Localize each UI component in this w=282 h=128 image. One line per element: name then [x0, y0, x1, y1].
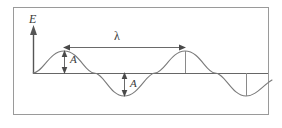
- wavelength-annotation: [63, 45, 186, 51]
- y-axis-arrowhead-icon: [30, 25, 37, 35]
- wavelength-label: λ: [114, 30, 120, 42]
- amplitude-trough-annotation: [122, 72, 128, 97]
- wavelength-arrowhead-right-icon: [179, 45, 186, 51]
- wave-diagram-canvas: [0, 0, 282, 128]
- amplitude-crest-arrowhead-bottom-icon: [62, 67, 68, 74]
- y-axis-label: E: [29, 13, 36, 25]
- wave-diagram-figure: E λ A A: [0, 0, 282, 128]
- figure-border: [14, 8, 269, 115]
- wavelength-arrowhead-left-icon: [63, 45, 70, 51]
- amplitude-crest-label: A: [70, 54, 77, 65]
- amplitude-trough-label: A: [130, 78, 137, 89]
- amplitude-crest-annotation: [62, 50, 68, 74]
